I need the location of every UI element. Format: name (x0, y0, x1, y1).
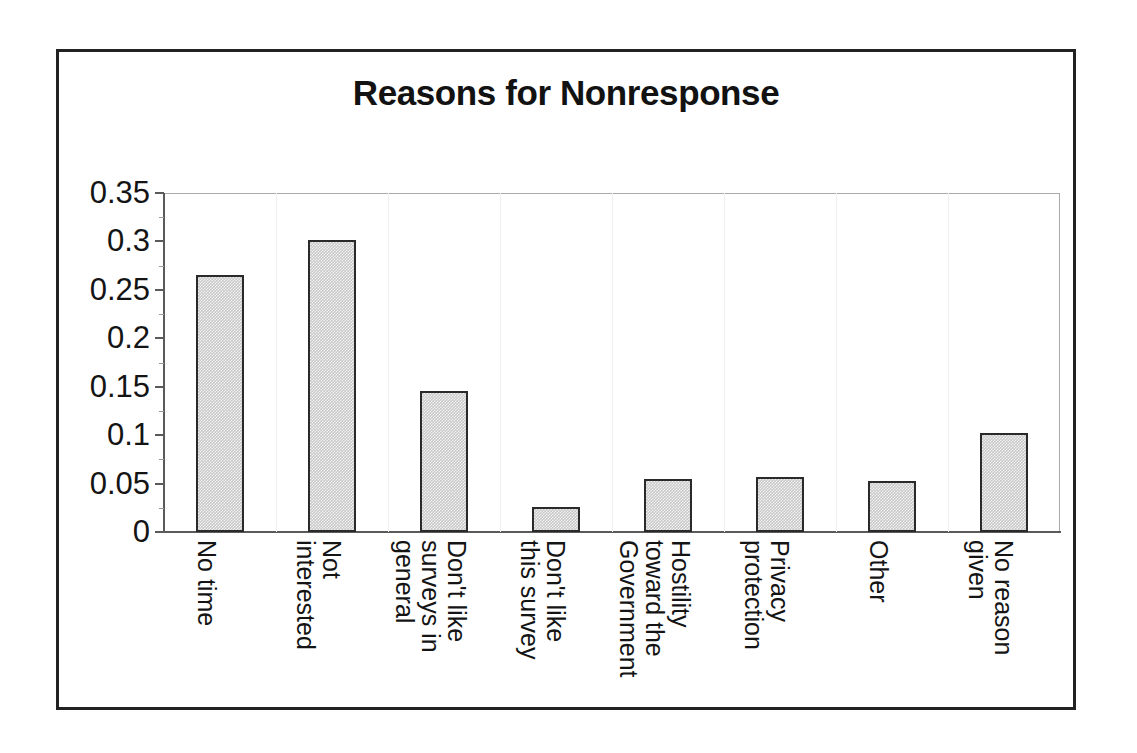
category-gridline (276, 193, 277, 532)
x-axis-tick-label: interested (293, 540, 319, 650)
y-axis-minor-tick (159, 266, 164, 267)
bar[interactable] (980, 433, 1028, 532)
y-axis-tick (155, 386, 164, 388)
y-axis-tick-label: 0.2 (107, 320, 150, 356)
y-axis-minor-tick (159, 314, 164, 315)
x-axis-tick-label: Hostility (668, 540, 694, 628)
chart-title: Reasons for Nonresponse (59, 73, 1073, 113)
y-axis-tick-label: 0.3 (107, 223, 150, 259)
y-axis-tick (155, 337, 164, 339)
y-axis-tick (155, 240, 164, 242)
y-axis-minor-tick (159, 508, 164, 509)
category-gridline (836, 193, 837, 532)
y-axis-tick-label: 0.35 (90, 175, 150, 211)
x-axis-tick-label: Don't like (444, 540, 470, 642)
x-axis-tick-label: this survey (517, 540, 543, 659)
y-axis-tick (155, 192, 164, 194)
y-axis-tick-label: 0.05 (90, 466, 150, 502)
x-axis-tick-label: given (965, 540, 991, 600)
x-axis-tick-label: Government (616, 540, 642, 678)
y-axis-tick-label: 0.1 (107, 417, 150, 453)
bar[interactable] (308, 240, 356, 532)
category-gridline (500, 193, 501, 532)
bar[interactable] (420, 391, 468, 532)
x-axis-tick-label: Privacy (767, 540, 793, 622)
bar[interactable] (756, 477, 804, 532)
y-axis-minor-tick (159, 217, 164, 218)
x-axis-tick-label: general (392, 540, 418, 623)
y-axis-minor-tick (159, 411, 164, 412)
y-axis-tick (155, 483, 164, 485)
x-axis-tick-label: No time (194, 540, 220, 626)
x-axis-tick-label: surveys in (418, 540, 444, 653)
figure-frame: Reasons for Nonresponse 0.350.30.250.20.… (56, 49, 1076, 710)
category-gridline (724, 193, 725, 532)
bar[interactable] (532, 507, 580, 532)
category-gridline (388, 193, 389, 532)
x-axis-tick-label: Don't like (543, 540, 569, 642)
y-axis-tick (155, 434, 164, 436)
x-axis-tick-label: protection (741, 540, 767, 650)
y-axis-minor-tick (159, 459, 164, 460)
y-axis-tick-label: 0 (133, 514, 150, 550)
x-axis-tick-label: Other (866, 540, 892, 603)
category-gridline (612, 193, 613, 532)
bar[interactable] (196, 275, 244, 532)
category-gridline (948, 193, 949, 532)
x-axis-tick-label: No reason (991, 540, 1017, 655)
bar[interactable] (868, 481, 916, 532)
bar[interactable] (644, 479, 692, 532)
y-axis-tick-label: 0.15 (90, 369, 150, 405)
x-axis-tick-label: Not (319, 540, 345, 579)
x-axis-labels: No timeNotinterestedDon't likesurveys in… (164, 540, 1060, 710)
y-axis-tick (155, 289, 164, 291)
plot-area: 0.350.30.250.20.150.10.050 (164, 193, 1060, 532)
y-axis-tick (155, 531, 164, 533)
plot-border-right (1059, 193, 1060, 532)
y-axis-tick-label: 0.25 (90, 272, 150, 308)
x-axis-tick-label: toward the (642, 540, 668, 657)
y-axis-minor-tick (159, 363, 164, 364)
